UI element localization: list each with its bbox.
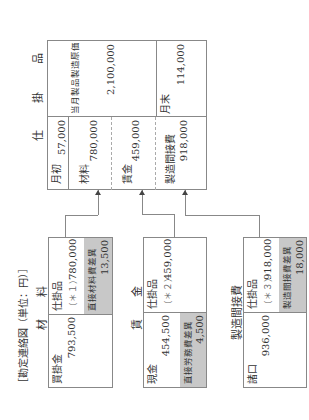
wip-debit-amount: 780,000 xyxy=(88,120,100,170)
connector-labor xyxy=(142,214,175,237)
overhead-divider xyxy=(243,312,307,313)
material-debit-amount: 793,500 xyxy=(66,317,78,365)
arrow-icon xyxy=(182,190,188,195)
wip-debit-label: 月初 xyxy=(51,164,63,184)
labor-divider xyxy=(143,312,207,313)
labor-debit-label: 現金 xyxy=(147,364,159,384)
labor-credit-label: 仕掛品 xyxy=(147,279,159,309)
wip-row-sep xyxy=(155,117,156,190)
wip-credit-sep xyxy=(156,40,157,117)
material-variance-label: 直接材料費差異 xyxy=(87,248,97,311)
wip-debit-amount: 459,000 xyxy=(130,120,142,170)
material-debit-label: 買掛金 xyxy=(52,354,64,384)
wip-debit-amount: 57,000 xyxy=(56,120,68,165)
wip-debit-amount: 918,000 xyxy=(178,120,190,170)
wip-credit-amount: 2,100,000 xyxy=(105,44,117,100)
material-credit-note: （＊１） xyxy=(68,275,78,311)
labor-credit-amount: 459,000 xyxy=(162,240,174,280)
wip-credit-label: 月末 xyxy=(160,94,172,114)
labor-debit-amount: 454,500 xyxy=(160,315,172,363)
material-variance-amount: 13,500 xyxy=(99,240,111,280)
material-credit-label: 仕掛品 xyxy=(52,281,64,311)
wip-row-sep xyxy=(111,117,112,190)
overhead-variance-amount: 18,000 xyxy=(294,240,306,280)
labor-title: 賃 金 xyxy=(128,286,144,330)
wip-row-sep xyxy=(68,117,69,190)
overhead-debit-amount: 936,000 xyxy=(260,315,272,363)
wip-credit-amount: 114,000 xyxy=(175,44,187,90)
overhead-variance-label: 製造間接費差異 xyxy=(282,246,292,309)
overhead-debit-label: 諸口 xyxy=(247,364,259,384)
wip-divider xyxy=(47,116,207,117)
connector-material xyxy=(65,215,98,237)
material-title: 材 料 xyxy=(33,286,49,330)
connector-overhead xyxy=(185,215,260,237)
account-diagram: ［勘定連絡図（単位：円）］ 仕 掛 品 月初 57,000 材料 780,000… xyxy=(0,0,309,420)
labor-variance-amount: 4,500 xyxy=(194,315,206,355)
overhead-credit-amount: 918,000 xyxy=(262,240,274,280)
overhead-title: 製造間接費 xyxy=(228,285,244,340)
material-credit-amount: 780,000 xyxy=(67,240,79,280)
labor-variance-label: 直接労務費差異 xyxy=(183,321,193,384)
diagram-title: ［勘定連絡図（単位：円）］ xyxy=(18,263,30,388)
wip-debit-label: 製造間接費 xyxy=(165,134,177,184)
arrow-icon xyxy=(95,190,101,195)
material-divider xyxy=(48,314,113,315)
arrow-icon xyxy=(139,190,145,195)
wip-title: 仕 掛 品 xyxy=(29,41,45,141)
overhead-credit-label: 仕掛品 xyxy=(247,279,259,309)
wip-credit-label: 当月製品製造原価 xyxy=(70,42,80,114)
